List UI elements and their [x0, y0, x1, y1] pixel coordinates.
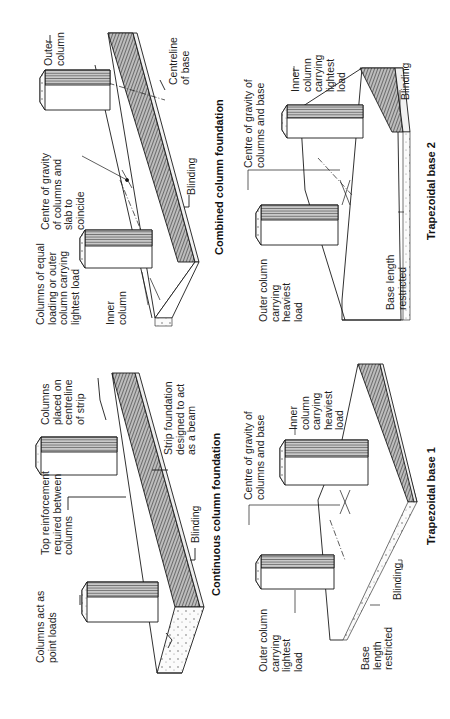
label-inner-column-heaviest: Inner column carrying heaviest load	[288, 391, 346, 430]
label-centre-gravity-combined: Centre of gravity of columns and slab to…	[40, 153, 86, 230]
label-top-reinforcement: Top reinforcement required between colum…	[40, 471, 75, 555]
label-equal-loading: Columns of equal loading or outer column…	[35, 243, 81, 325]
title-combined: Combined column foundation	[213, 99, 225, 255]
label-base-length-t2: Base length restricted	[385, 255, 408, 310]
label-centre-gravity-t1: Centre of gravity of columns and base	[243, 411, 266, 500]
label-outer-column: Outer column	[43, 32, 66, 66]
foundation-diagrams-artwork	[0, 0, 450, 719]
label-centreline-base: Centreline of base	[168, 37, 191, 85]
label-inner-column: Inner column	[105, 291, 128, 325]
label-point-loads: Columns act as point loads	[35, 591, 58, 663]
label-blinding-continuous: Blinding	[190, 506, 202, 543]
label-centreline-strip: Columns placed on centreline of strip	[40, 379, 86, 425]
label-centre-gravity-t2: Centre of gravity of columns and base	[243, 79, 266, 168]
title-continuous: Continuous column foundation	[210, 433, 222, 596]
title-trapezoidal-1: Trapezoidal base 1	[425, 447, 437, 545]
label-blinding-t1: Blinding	[392, 563, 404, 600]
title-trapezoidal-2: Trapezoidal base 2	[425, 142, 437, 240]
label-outer-column-heaviest: Outer column carrying heaviest load	[258, 259, 304, 322]
label-strip-beam: Strip foundation designed to act as a be…	[163, 381, 198, 455]
label-base-length-t1: Base length restricted	[360, 627, 395, 670]
label-blinding-combined: Blinding	[186, 158, 198, 195]
label-outer-column-lightest: Outer column carrying lightest load	[258, 609, 304, 672]
label-inner-column-lightest: Inner column carrying lightest load	[290, 55, 348, 92]
label-blinding-t2: Blinding	[400, 63, 412, 100]
